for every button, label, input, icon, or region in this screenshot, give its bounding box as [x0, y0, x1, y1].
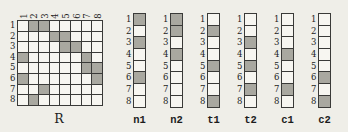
matrix-cell	[71, 42, 81, 52]
matrix-cell	[39, 42, 49, 52]
vector-cell	[282, 84, 293, 95]
matrix-column-header: 1	[18, 9, 29, 20]
vector-cell	[134, 14, 145, 25]
matrix-column-header: 5	[60, 9, 71, 20]
vector-row-labels: 12345678	[161, 13, 170, 108]
matrix-cell	[82, 85, 92, 95]
matrix-column-header: 3	[39, 9, 50, 20]
matrix-column-header-digit: 1	[19, 13, 27, 18]
vector-row-label: 7	[272, 84, 281, 95]
vector-cell	[282, 61, 293, 72]
matrix-cell	[50, 32, 60, 42]
matrix-cell	[29, 21, 39, 31]
vector-cell	[134, 96, 145, 107]
vector-row-label: 4	[272, 49, 281, 60]
matrix-column-header: 6	[71, 9, 82, 20]
vector-cell	[319, 37, 330, 48]
vector-row-label: 6	[272, 72, 281, 83]
vector-cells	[318, 13, 331, 108]
matrix-row-label: 7	[9, 85, 17, 95]
matrix-cell	[29, 85, 39, 95]
vector-row-label: 5	[235, 61, 244, 72]
vector-cell	[319, 61, 330, 72]
vector-row-label: 1	[309, 14, 318, 25]
vector-cell	[171, 26, 182, 37]
matrix-cell	[82, 95, 92, 105]
matrix-column-header: 2	[29, 9, 40, 20]
matrix-row-label: 6	[9, 74, 17, 84]
vector-cell	[208, 84, 219, 95]
vector-cell	[319, 72, 330, 83]
vector-row-label: 6	[309, 72, 318, 83]
vector-row-label: 6	[124, 72, 133, 83]
vector-row-label: 1	[124, 14, 133, 25]
vector-row-label: 8	[272, 96, 281, 107]
matrix-cell	[92, 63, 102, 73]
matrix-cell	[92, 74, 102, 84]
vector-row-label: 8	[235, 96, 244, 107]
matrix-column-header-digit: 7	[83, 13, 91, 18]
vector-cell	[171, 72, 182, 83]
vector-row-label: 2	[161, 26, 170, 37]
vector-cell	[171, 49, 182, 60]
matrix-cell	[71, 63, 81, 73]
vector-cell	[208, 72, 219, 83]
vector-cell	[171, 96, 182, 107]
vector-cell	[319, 49, 330, 60]
vector-label: n1	[124, 114, 146, 126]
vector-cell	[208, 96, 219, 107]
vector-cell	[282, 49, 293, 60]
vector-row-label: 5	[198, 61, 207, 72]
vector-cell	[208, 61, 219, 72]
vector-row-label: 8	[124, 96, 133, 107]
vector-cell	[134, 37, 145, 48]
matrix-cell	[39, 95, 49, 105]
matrix-grid	[17, 20, 103, 106]
vector-label: n2	[161, 114, 183, 126]
matrix-row-label: 3	[9, 42, 17, 52]
matrix-cell	[50, 42, 60, 52]
vector-row-label: 5	[161, 61, 170, 72]
matrix-cell	[71, 21, 81, 31]
matrix-cell	[29, 95, 39, 105]
matrix-column-header: 8	[92, 9, 103, 20]
vector-label: c2	[309, 114, 331, 126]
matrix-cell	[82, 63, 92, 73]
vector-row-label: 4	[124, 49, 133, 60]
matrix-cell	[92, 32, 102, 42]
matrix-cell	[18, 53, 28, 63]
relation-matrix: 12345678 12345678 R	[9, 9, 106, 126]
matrix-cell	[60, 32, 70, 42]
vector-row-label: 6	[198, 72, 207, 83]
vector-row-label: 4	[161, 49, 170, 60]
matrix-cell	[18, 85, 28, 95]
vector-t2: 12345678t2	[235, 13, 257, 126]
vector-cell	[171, 37, 182, 48]
vector-label: t2	[235, 114, 257, 126]
vector-row-label: 2	[124, 26, 133, 37]
matrix-cell	[60, 63, 70, 73]
matrix-cell	[50, 85, 60, 95]
vector-row-label: 7	[309, 84, 318, 95]
vector-row-label: 3	[124, 37, 133, 48]
vector-body: 12345678	[161, 13, 183, 108]
matrix-cell	[92, 85, 102, 95]
vector-cell	[282, 26, 293, 37]
vector-body: 12345678	[198, 13, 220, 108]
matrix-body: 12345678	[9, 20, 106, 106]
matrix-column-header-digit: 5	[62, 13, 70, 18]
vector-cell	[245, 96, 256, 107]
vector-row-label: 2	[198, 26, 207, 37]
vector-cell	[319, 96, 330, 107]
matrix-cell	[39, 21, 49, 31]
figure: 12345678 12345678 R 12345678n112345678n2…	[0, 0, 348, 132]
vector-row-label: 2	[235, 26, 244, 37]
vector-row-label: 3	[235, 37, 244, 48]
matrix-row-label: 1	[9, 21, 17, 31]
vector-cell	[282, 14, 293, 25]
vector-cell	[245, 84, 256, 95]
matrix-cell	[60, 21, 70, 31]
matrix-cell	[50, 63, 60, 73]
matrix-column-header-digit: 2	[30, 13, 38, 18]
matrix-cell	[29, 63, 39, 73]
